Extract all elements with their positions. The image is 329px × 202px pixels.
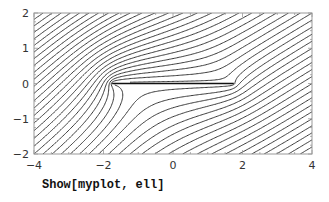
- x-axis-labels: −4−2024: [26, 159, 316, 172]
- y-axis-labels: −2−1012: [13, 7, 29, 161]
- x-tick-label: 4: [309, 159, 316, 172]
- x-tick-label: −2: [95, 159, 111, 172]
- y-tick-label: 1: [22, 42, 29, 55]
- y-tick-label: 0: [22, 78, 29, 91]
- y-tick-label: −1: [13, 113, 29, 126]
- y-tick-label: 2: [22, 7, 29, 20]
- streamlines: [34, 13, 312, 154]
- code-caption: Show[myplot, ell]: [42, 178, 164, 192]
- x-tick-label: 2: [239, 159, 246, 172]
- x-tick-label: 0: [170, 159, 177, 172]
- streamline-plot: −4−2024 −2−1012: [0, 0, 329, 175]
- y-tick-label: −2: [13, 148, 29, 161]
